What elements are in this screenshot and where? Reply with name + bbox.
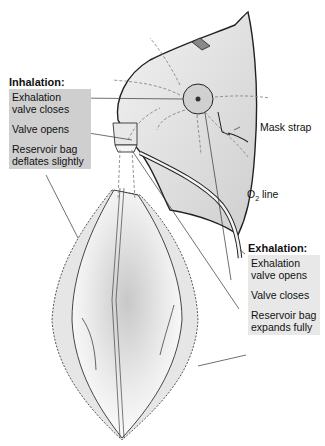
- inhalation-callout: Inhalation: Exhalation valve closes Valv…: [9, 76, 91, 169]
- text-line: Valve closes: [251, 289, 309, 301]
- inhalation-item-exhalation-valve-closes: Exhalation valve closes: [12, 91, 88, 115]
- mask-strap-label: Mask strap: [260, 121, 311, 133]
- exhalation-callout: Exhalation: Exhalation valve opens Valve…: [248, 242, 320, 335]
- exhalation-item-valve-closes: Valve closes: [251, 289, 317, 301]
- o2-suffix: line: [259, 188, 278, 200]
- exhalation-header: Exhalation:: [248, 242, 320, 254]
- text-line: expands fully: [251, 321, 312, 333]
- inhalation-header: Inhalation:: [9, 76, 91, 88]
- text-line: Valve opens: [12, 123, 69, 135]
- exhalation-item-exhalation-valve-opens: Exhalation valve opens: [251, 257, 317, 281]
- non-rebreather-mask-illustration: [0, 0, 325, 446]
- exhalation-item-reservoir-bag-expands: Reservoir bag expands fully: [251, 309, 317, 333]
- text-line: valve closes: [12, 103, 69, 115]
- text-line: Exhalation: [251, 257, 300, 269]
- inhalation-item-reservoir-bag-deflates: Reservoir bag deflates slightly: [12, 143, 88, 167]
- inhalation-item-valve-opens: Valve opens: [12, 123, 88, 135]
- text-line: Reservoir bag: [251, 309, 316, 321]
- text-line: Exhalation: [12, 91, 61, 103]
- inhalation-panel: Exhalation valve closes Valve opens Rese…: [9, 89, 91, 169]
- text-line: Reservoir bag: [12, 143, 77, 155]
- text-line: valve opens: [251, 269, 307, 281]
- o2-prefix: O: [247, 188, 255, 200]
- exhalation-panel: Exhalation valve opens Valve closes Rese…: [248, 255, 320, 335]
- text-line: deflates slightly: [12, 155, 84, 167]
- o2-line-label: O2 line: [247, 188, 278, 205]
